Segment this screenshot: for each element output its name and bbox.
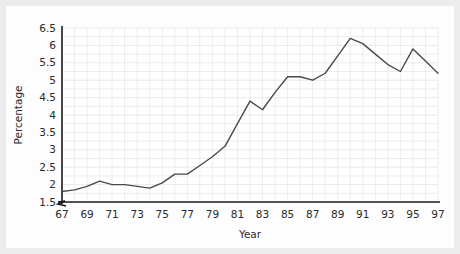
y-axis-title: Percentage xyxy=(12,85,24,144)
x-tick-label: 95 xyxy=(406,208,419,220)
y-tick-label: 3 xyxy=(49,143,56,155)
x-tick-label: 67 xyxy=(55,208,68,220)
y-tick-label: 5.5 xyxy=(39,56,56,68)
y-tick-label: 5 xyxy=(49,74,56,86)
y-tick-label: 2.5 xyxy=(39,161,56,173)
y-axis-tick-labels: 6.565.554.543.532.521.5 xyxy=(39,22,56,208)
y-tick-label: 1.5 xyxy=(39,196,56,208)
x-tick-label: 71 xyxy=(105,208,118,220)
x-tick-label: 93 xyxy=(381,208,394,220)
y-tick-label: 3.5 xyxy=(39,126,56,138)
horizontal-gridlines xyxy=(62,28,438,202)
y-tick-label: 6 xyxy=(49,39,56,51)
x-tick-label: 81 xyxy=(231,208,244,220)
x-tick-label: 73 xyxy=(131,208,144,220)
y-tick-label: 6.5 xyxy=(39,22,56,34)
x-tick-label: 83 xyxy=(256,208,269,220)
x-tick-label: 75 xyxy=(156,208,169,220)
x-tick-label: 85 xyxy=(281,208,294,220)
chart-figure: 6.565.554.543.532.521.5 6769717375777981… xyxy=(0,0,460,254)
x-tick-label: 77 xyxy=(181,208,194,220)
y-tick-label: 2 xyxy=(49,178,56,190)
x-tick-label: 79 xyxy=(206,208,219,220)
y-tick-label: 4 xyxy=(49,109,56,121)
x-tick-label: 97 xyxy=(431,208,444,220)
x-axis-tick-labels: 67697173757779818385878991939597 xyxy=(55,208,444,220)
line-chart-plot: 6.565.554.543.532.521.5 6769717375777981… xyxy=(0,0,460,254)
x-tick-label: 91 xyxy=(356,208,369,220)
x-tick-label: 69 xyxy=(80,208,93,220)
x-axis-title: Year xyxy=(238,228,262,240)
x-tick-label: 87 xyxy=(306,208,319,220)
x-tick-label: 89 xyxy=(331,208,344,220)
y-tick-label: 4.5 xyxy=(39,91,56,103)
